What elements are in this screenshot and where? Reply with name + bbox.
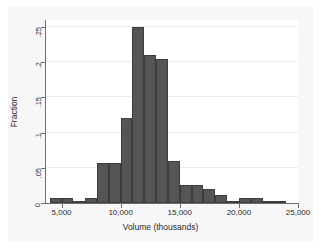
histogram-bar (180, 185, 192, 203)
gridline (45, 61, 298, 62)
histogram-figure: 0.05.1.15.2.25 5,00010,00015,00020,00025… (0, 0, 321, 248)
gridline (45, 132, 298, 133)
x-axis-tick-label: 25,000 (286, 209, 310, 217)
y-axis-tick-label: 0 (34, 203, 42, 207)
y-axis-tick-label: .15 (34, 97, 42, 107)
y-axis-tick-label: .05 (34, 168, 42, 178)
y-axis-tick-label: .25 (34, 27, 42, 37)
histogram-bar (192, 185, 204, 203)
histogram-bar (215, 195, 227, 203)
gridline (45, 26, 298, 27)
histogram-bar (132, 27, 144, 203)
y-axis-tick-label: .1 (34, 133, 42, 139)
y-axis-title: Fraction (10, 97, 19, 128)
histogram-bar (168, 161, 180, 203)
y-axis-tick-label: .2 (34, 62, 42, 68)
histogram-bar (121, 118, 133, 203)
histogram-bar (203, 189, 215, 203)
histogram-bar (144, 55, 156, 203)
histogram-bar (109, 163, 121, 203)
y-axis-line (45, 20, 46, 204)
gridline (45, 96, 298, 97)
x-axis-title: Volume (thousands) (0, 222, 321, 232)
x-axis-tick-label: 5,000 (52, 209, 72, 217)
histogram-bar (97, 163, 109, 203)
plot-area (45, 20, 298, 203)
x-axis-tick-label: 15,000 (168, 209, 192, 217)
histogram-bar (156, 59, 168, 203)
x-axis-tick-label: 10,000 (108, 209, 132, 217)
x-axis-line (45, 203, 299, 204)
x-axis-tick-label: 20,000 (227, 209, 251, 217)
